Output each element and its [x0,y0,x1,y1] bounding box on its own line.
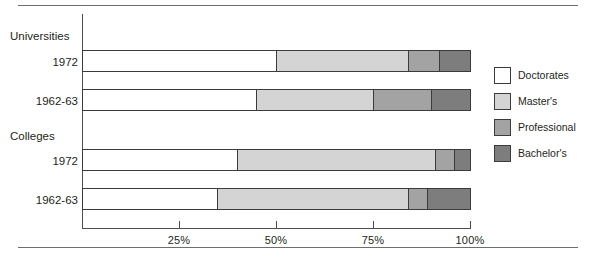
bar-universities-1972 [82,50,471,72]
legend-label: Master's [518,95,557,107]
bar-segment-master-s [237,149,436,171]
legend-swatch-icon [494,145,511,162]
chart-figure: Universities 1972 1962-63 Colleges 1972 … [0,0,595,257]
bar-segment-doctorates [82,89,257,111]
bar-universities-1962-63 [82,89,471,111]
x-tick-label-100: 100% [456,234,485,246]
legend-label: Bachelor's [518,147,567,159]
x-tick-25 [179,221,180,229]
row-label-universities-1962-63: 1962-63 [6,95,78,107]
bottom-divider-rule [18,247,578,248]
bar-segment-bachelor-s [454,149,471,171]
bar-segment-doctorates [82,149,238,171]
legend-swatch-icon [494,67,511,84]
x-tick-label-75: 75% [362,234,385,246]
plot-area: 25% 50% 75% 100% [82,14,471,229]
legend-item-bachelor-s: Bachelor's [494,140,592,166]
legend-swatch-icon [494,93,511,110]
x-tick-50 [276,221,277,229]
legend-item-master-s: Master's [494,88,592,114]
group-label-universities: Universities [10,30,69,42]
bar-colleges-1972 [82,149,471,171]
y-axis-labels: Universities 1972 1962-63 Colleges 1972 … [0,0,78,257]
bar-segment-bachelor-s [431,89,471,111]
legend-item-doctorates: Doctorates [494,62,592,88]
bar-segment-bachelor-s [427,188,471,210]
bar-segment-professional [408,50,440,72]
bar-segment-master-s [276,50,409,72]
bar-segment-master-s [217,188,409,210]
bar-segment-bachelor-s [439,50,471,72]
bar-segment-professional [435,149,455,171]
legend-label: Professional [518,121,576,133]
x-tick-100 [470,221,471,229]
legend-item-professional: Professional [494,114,592,140]
bar-segment-master-s [256,89,374,111]
bar-segment-professional [373,89,432,111]
x-tick-label-50: 50% [265,234,288,246]
bar-segment-doctorates [82,188,218,210]
bar-segment-professional [408,188,428,210]
bar-colleges-1962-63 [82,188,471,210]
legend-label: Doctorates [518,69,569,81]
chart-legend: DoctoratesMaster'sProfessionalBachelor's [494,62,592,166]
legend-swatch-icon [494,119,511,136]
x-tick-label-25: 25% [168,234,191,246]
group-label-colleges: Colleges [10,130,55,142]
x-tick-75 [373,221,374,229]
bar-segment-doctorates [82,50,277,72]
row-label-universities-1972: 1972 [6,56,78,68]
row-label-colleges-1962-63: 1962-63 [6,194,78,206]
top-divider-rule [18,5,578,6]
row-label-colleges-1972: 1972 [6,155,78,167]
